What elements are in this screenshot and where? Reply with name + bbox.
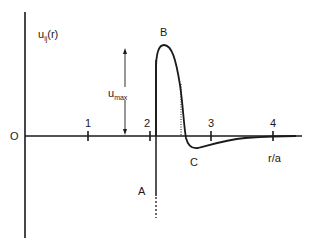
point-label-b: B xyxy=(160,27,167,38)
x-tick-label-4: 4 xyxy=(270,118,276,129)
y-label-suffix: (r) xyxy=(47,28,58,40)
umax-arrow-down-icon xyxy=(123,129,127,135)
x-tick-label-2: 2 xyxy=(144,118,150,129)
point-label-a: A xyxy=(138,186,145,197)
x-tick-label-3: 3 xyxy=(208,118,214,129)
y-label-subscript: ij xyxy=(44,35,47,42)
origin-label: O xyxy=(10,131,19,142)
umax-label: umax xyxy=(108,87,127,100)
umax-subscript: max xyxy=(114,94,127,101)
point-label-c: C xyxy=(190,157,198,168)
umax-arrow-up-icon xyxy=(123,48,127,54)
y-axis-label: uij(r) xyxy=(38,29,58,40)
potential-curve xyxy=(156,45,296,148)
x-axis-label: r/a xyxy=(268,153,281,164)
x-tick-label-1: 1 xyxy=(85,118,91,129)
